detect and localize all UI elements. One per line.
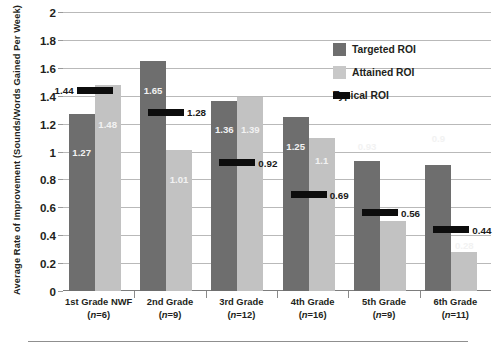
bar-attained-roi	[451, 252, 477, 291]
value-label-attained: 1.39	[241, 124, 260, 135]
x-category-name: 5th Grade	[348, 296, 419, 309]
typical-roi-marker	[433, 226, 469, 233]
typical-roi-marker	[291, 191, 327, 198]
y-tick-mark	[58, 40, 63, 41]
y-tick-label: 1.8	[0, 33, 56, 46]
bar-targeted-roi	[354, 161, 380, 291]
y-tick-label: 0.2	[0, 257, 56, 270]
x-axis-category-label: 6th Grade(n=11)	[420, 296, 491, 321]
typical-roi-value-label: 1.28	[187, 107, 206, 118]
bar-attained-roi	[166, 150, 192, 291]
y-tick-mark	[58, 152, 63, 153]
x-category-name: 6th Grade	[420, 296, 491, 309]
legend-label-targeted: Targeted ROI	[352, 44, 416, 55]
y-tick-label: 1	[0, 145, 56, 158]
value-label-targeted: 0.9	[432, 132, 445, 143]
value-label-targeted: 1.65	[144, 85, 163, 96]
x-category-count: (n=16)	[277, 309, 348, 322]
legend-item-typical-roi[interactable]: Typical ROI	[333, 86, 483, 105]
y-tick-mark	[58, 263, 63, 264]
typical-roi-value-label: 1.44	[55, 85, 74, 96]
typical-roi-marker	[148, 109, 184, 116]
value-label-attained: 1.48	[98, 118, 117, 129]
y-tick-label: 1.4	[0, 89, 56, 102]
legend-item-attained-roi[interactable]: Attained ROI	[333, 63, 483, 82]
value-label-targeted: 1.36	[215, 124, 234, 135]
value-label-targeted: 0.93	[358, 140, 377, 151]
y-tick-mark	[58, 291, 63, 292]
x-category-name: 1st Grade NWF	[63, 296, 134, 309]
typical-roi-value-label: 0.44	[472, 224, 491, 235]
typical-roi-value-label: 0.92	[258, 157, 277, 168]
chart-figure: Average Rate of Improvement (Sounds/Word…	[0, 0, 496, 353]
typical-roi-value-label: 0.56	[401, 207, 420, 218]
x-category-count: (n=6)	[63, 309, 134, 322]
typical-roi-value-label: 0.69	[330, 189, 349, 200]
y-tick-label: 0.6	[0, 201, 56, 214]
x-category-name: 4th Grade	[277, 296, 348, 309]
x-axis-category-label: 4th Grade(n=16)	[277, 296, 348, 321]
legend-swatch-icon-typical	[333, 92, 350, 99]
x-axis-category-label: 5th Grade(n=9)	[348, 296, 419, 321]
bar-attained-roi	[380, 221, 406, 291]
x-axis-category-label: 3rd Grade(n=12)	[206, 296, 277, 321]
bar-targeted-roi	[69, 114, 95, 291]
y-tick-label: 0.8	[0, 173, 56, 186]
x-category-count: (n=12)	[206, 309, 277, 322]
x-axis-category-label: 1st Grade NWF(n=6)	[63, 296, 134, 321]
x-category-name: 2nd Grade	[134, 296, 205, 309]
value-label-attained: 1.01	[170, 174, 189, 185]
typical-roi-marker	[362, 209, 398, 216]
x-category-count: (n=11)	[420, 309, 491, 322]
y-tick-label: 0	[0, 285, 56, 298]
typical-roi-marker	[77, 87, 113, 94]
gridline	[63, 152, 491, 153]
y-tick-label: 1.2	[0, 117, 56, 130]
value-label-attained: 1.1	[315, 154, 328, 165]
value-label-targeted: 1.27	[72, 146, 91, 157]
legend-label-attained: Attained ROI	[352, 67, 414, 78]
y-tick-mark	[58, 207, 63, 208]
legend-item-targeted-roi[interactable]: Targeted ROI	[333, 40, 483, 59]
gridline	[63, 124, 491, 125]
value-label-attained: 0.28	[455, 239, 474, 250]
y-tick-mark	[58, 12, 63, 13]
x-category-name: 3rd Grade	[206, 296, 277, 309]
x-category-count: (n=9)	[134, 309, 205, 322]
y-tick-mark	[58, 179, 63, 180]
y-tick-mark	[58, 68, 63, 69]
value-label-targeted: 1.25	[286, 140, 305, 151]
bar-attained-roi	[95, 85, 121, 291]
legend-swatch-icon-attained	[333, 66, 346, 79]
y-tick-mark	[58, 96, 63, 97]
x-category-count: (n=9)	[348, 309, 419, 322]
chart-legend: Targeted ROI Attained ROI Typical ROI	[333, 40, 483, 109]
footer-divider	[28, 341, 468, 342]
y-tick-label: 0.4	[0, 229, 56, 242]
y-tick-mark	[58, 235, 63, 236]
typical-roi-marker	[219, 159, 255, 166]
gridline	[63, 12, 491, 13]
y-tick-label: 1.6	[0, 61, 56, 74]
y-tick-label: 2	[0, 6, 56, 19]
x-axis-category-label: 2nd Grade(n=9)	[134, 296, 205, 321]
y-tick-mark	[58, 124, 63, 125]
legend-swatch-icon-targeted	[333, 43, 346, 56]
